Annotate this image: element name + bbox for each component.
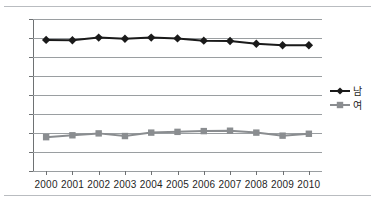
square-marker-icon (330, 99, 350, 111)
x-tick-mark (256, 171, 257, 175)
square-marker (148, 129, 154, 135)
series-여 (43, 128, 312, 141)
x-tick-mark (125, 171, 126, 175)
x-tick-mark (230, 171, 231, 175)
square-marker (253, 129, 259, 135)
x-tick-mark (283, 171, 284, 175)
x-tick-mark (151, 171, 152, 175)
diamond-glyph (336, 87, 344, 95)
square-marker (201, 128, 207, 134)
plot-area: 404550556065707580 200020012002200320042… (33, 19, 322, 171)
series-남 (42, 33, 313, 49)
bottom-divider-rule (4, 195, 371, 196)
legend-item-female[interactable]: 여 (330, 98, 374, 112)
x-tick-mark (204, 171, 205, 175)
diamond-marker (226, 37, 234, 45)
legend-label-female: 여 (353, 100, 362, 111)
top-divider-rule (4, 6, 371, 7)
x-tick-mark (178, 171, 179, 175)
square-marker (95, 130, 101, 136)
x-tick-mark (46, 171, 47, 175)
x-tick-mark (99, 171, 100, 175)
square-marker (122, 133, 128, 139)
diamond-marker (252, 40, 260, 48)
diamond-marker (147, 33, 155, 41)
square-marker (227, 128, 233, 134)
square-marker (306, 131, 312, 137)
chart-legend: 남 여 (330, 84, 374, 112)
x-tick-mark (309, 171, 310, 175)
x-tick-mark (72, 171, 73, 175)
diamond-marker (200, 36, 208, 44)
diamond-marker (94, 33, 102, 41)
square-marker (43, 134, 49, 140)
legend-item-male[interactable]: 남 (330, 84, 374, 98)
square-glyph (336, 101, 344, 109)
y-tick-mark (29, 171, 33, 172)
square-marker (279, 132, 285, 138)
diamond-marker (42, 36, 50, 44)
diamond-marker (305, 41, 313, 49)
diamond-marker (121, 35, 129, 43)
square-marker (69, 132, 75, 138)
x-tick-label: 2010 (289, 179, 329, 190)
data-series-layer (33, 19, 322, 171)
chart-figure: 404550556065707580 200020012002200320042… (0, 0, 375, 203)
diamond-marker (278, 41, 286, 49)
diamond-marker (173, 34, 181, 42)
square-marker (174, 129, 180, 135)
diamond-marker-icon (330, 85, 350, 97)
diamond-marker (68, 36, 76, 44)
legend-label-male: 남 (353, 86, 362, 97)
